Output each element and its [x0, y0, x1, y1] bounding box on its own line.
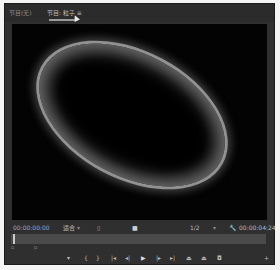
play-button[interactable]: ▶ [141, 251, 146, 265]
step-forward-button[interactable]: |▸ [156, 251, 161, 265]
add-marker-button[interactable]: ▾ [67, 251, 70, 265]
step-back-button[interactable]: ◂| [125, 251, 130, 265]
monitor-controls-row: 00:00:00:00 适合 ▾ ▯ ■ 1/2 ▾ 🔧 00:00:04:24 [5, 222, 274, 234]
tab-program-none[interactable]: 节目(无) [9, 7, 32, 19]
current-timecode[interactable]: 00:00:00:00 [13, 222, 50, 234]
playhead[interactable] [13, 234, 15, 244]
in-out-markers: ▫ ▫ [11, 244, 37, 250]
go-to-in-button[interactable]: |◂ [111, 251, 116, 265]
safe-margins-icon[interactable]: ▯ [97, 222, 100, 234]
resolution-dropdown[interactable]: 1/2 [190, 222, 200, 234]
video-preview[interactable] [12, 24, 267, 220]
settings-icon[interactable]: ■ [132, 222, 138, 234]
transport-controls: ▾ { } |◂ ◂| ▶ |▸ ▸| ⏏ ⏏ ◘ + [5, 251, 274, 265]
panel-tab-bar: 节目(无) 节目: 粒子 ≡ [5, 4, 274, 22]
in-marker-icon: ▫ [11, 244, 14, 250]
mark-in-button[interactable]: { [84, 251, 88, 265]
go-to-out-button[interactable]: ▸| [170, 251, 175, 265]
export-frame-button[interactable]: ◘ [217, 251, 222, 265]
timeline-scrubber[interactable] [11, 234, 266, 244]
particle-ring-graphic [15, 24, 249, 216]
wrench-icon[interactable]: 🔧 [229, 222, 236, 234]
extract-button[interactable]: ⏏ [201, 251, 207, 265]
out-marker-icon: ▫ [34, 244, 37, 250]
program-monitor-panel: 节目(无) 节目: 粒子 ≡ 00:00:00:00 适合 ▾ ▯ ■ 1/2 … [4, 3, 275, 265]
lift-button[interactable]: ⏏ [186, 251, 192, 265]
chevron-down-icon[interactable]: ▾ [77, 222, 80, 234]
chevron-down-icon[interactable]: ▾ [213, 222, 216, 234]
duration-timecode: 00:00:04:24 [239, 222, 276, 234]
active-tab-indicator [49, 19, 75, 21]
fit-dropdown[interactable]: 适合 [63, 222, 75, 234]
add-button[interactable]: + [264, 251, 269, 265]
mark-out-button[interactable]: } [96, 251, 100, 265]
